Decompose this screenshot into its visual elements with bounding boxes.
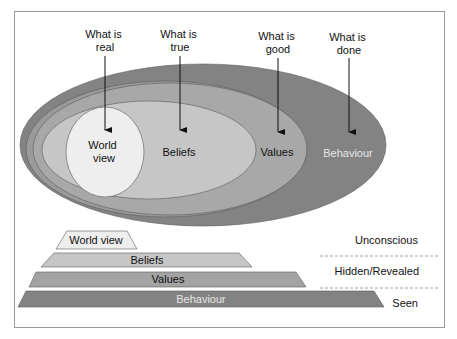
layer-beliefs-label: Beliefs bbox=[130, 254, 164, 266]
level-seen: Seen bbox=[392, 297, 418, 309]
worldview-diagram: What is real What is true What is good W… bbox=[0, 0, 457, 339]
label-values: Values bbox=[261, 146, 294, 158]
label-behaviour: Behaviour bbox=[323, 147, 373, 159]
layer-behaviour-label: Behaviour bbox=[176, 293, 226, 305]
layer-worldview-label: World view bbox=[69, 234, 123, 246]
level-hidden-revealed: Hidden/Revealed bbox=[335, 265, 419, 277]
level-unconscious: Unconscious bbox=[355, 234, 418, 246]
layer-values-label: Values bbox=[152, 273, 185, 285]
label-beliefs: Beliefs bbox=[162, 146, 196, 158]
